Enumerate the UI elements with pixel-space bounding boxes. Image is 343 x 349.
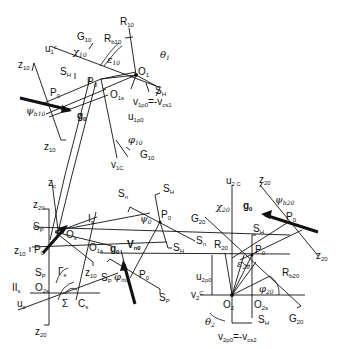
svg-text:SH: SH <box>258 314 269 326</box>
svg-text:G10: G10 <box>140 149 155 161</box>
svg-text:v2C: v2C <box>191 289 204 301</box>
svg-text:ε20: ε20 <box>237 258 250 270</box>
svg-text:SP: SP <box>159 292 170 304</box>
svg-text:O2s: O2s <box>254 299 268 311</box>
svg-text:O1: O1 <box>138 66 150 78</box>
svg-text:z20: z20 <box>35 326 47 338</box>
svg-text:φ20: φ20 <box>259 283 274 295</box>
svg-text:P0: P0 <box>161 209 172 221</box>
svg-text:SP: SP <box>101 272 112 284</box>
svg-text:Γs: Γs <box>58 266 67 278</box>
svg-text:IIs: IIs <box>12 282 21 294</box>
svg-text:Rb10: Rb10 <box>104 33 122 45</box>
svg-text:Vn0: Vn0 <box>127 239 141 251</box>
svg-text:v2p0=-vcs2: v2p0=-vcs2 <box>218 331 257 343</box>
svg-text:v1p0=-vcs1: v1p0=-vcs1 <box>133 96 172 108</box>
svg-text:z10: z10 <box>14 245 26 257</box>
svg-text:SH: SH <box>60 66 71 78</box>
svg-text:Rb20: Rb20 <box>282 267 300 279</box>
svg-text:P0: P0 <box>87 76 98 88</box>
svg-text:O2s: O2s <box>35 282 49 294</box>
svg-text:O2: O2 <box>223 299 235 311</box>
svg-text:P0: P0 <box>34 244 45 256</box>
svg-text:φ10: φ10 <box>128 134 143 146</box>
svg-text:O1s: O1s <box>89 242 103 254</box>
svg-text:u1p0: u1p0 <box>128 111 144 123</box>
svg-text:z10: z10 <box>44 141 56 153</box>
svg-text:z20: z20 <box>33 199 45 211</box>
svg-text:O1s: O1s <box>110 89 124 101</box>
svg-text:ψb10: ψb10 <box>26 105 46 117</box>
gear-mesh-diagram: R10 Rb10 G10 u1c χ10 θ1 ε10 SH SH O1 O1s… <box>0 0 343 349</box>
diagram-canvas: R10 Rb10 G10 u1c χ10 θ1 ε10 SH SH O1 O1s… <box>0 0 343 349</box>
svg-text:zc: zc <box>48 177 56 189</box>
svg-text:Os: Os <box>66 229 77 241</box>
svg-text:u1c: u1c <box>45 43 57 55</box>
svg-text:z20: z20 <box>316 250 328 262</box>
svg-text:ε10: ε10 <box>107 54 120 66</box>
svg-text:Cs: Cs <box>78 298 88 310</box>
svg-text:SH: SH <box>253 223 264 235</box>
svg-text:P0: P0 <box>139 269 150 281</box>
svg-text:g0: g0 <box>77 110 87 122</box>
svg-text:Σ: Σ <box>62 298 68 309</box>
svg-text:ψ0: ψ0 <box>140 213 152 225</box>
svg-text:R10: R10 <box>120 16 135 28</box>
svg-text:G10: G10 <box>77 31 92 43</box>
svg-text:u2 C: u2 C <box>226 175 242 187</box>
svg-text:g0: g0 <box>110 243 120 255</box>
svg-text:θ1: θ1 <box>160 49 170 61</box>
left-labels: zc z20 SP Os z10 P0 Is O1s SP Γs z10 IIs… <box>12 177 103 338</box>
svg-text:v1C: v1C <box>111 159 124 171</box>
svg-text:G20: G20 <box>191 213 206 225</box>
svg-text:z10: z10 <box>85 267 97 279</box>
svg-text:SH: SH <box>173 242 184 254</box>
svg-text:P0: P0 <box>255 244 266 256</box>
svg-text:χ10: χ10 <box>72 46 87 58</box>
svg-text:SP: SP <box>35 267 46 279</box>
svg-text:uc: uc <box>17 298 26 310</box>
svg-text:SH: SH <box>163 183 174 195</box>
svg-text:R20: R20 <box>214 239 229 251</box>
svg-text:z20: z20 <box>259 174 271 186</box>
svg-text:Sn: Sn <box>118 188 128 200</box>
svg-text:u2p0: u2p0 <box>196 271 212 283</box>
svg-text:ψb20: ψb20 <box>275 194 295 206</box>
svg-text:Sn: Sn <box>196 235 206 247</box>
svg-text:g0: g0 <box>243 200 253 212</box>
svg-text:P0: P0 <box>286 211 297 223</box>
svg-text:P0: P0 <box>50 87 61 99</box>
svg-text:z10: z10 <box>18 59 30 71</box>
svg-text:Is: Is <box>88 213 94 225</box>
svg-text:χ20: χ20 <box>215 201 230 213</box>
svg-text:θ2: θ2 <box>205 316 215 328</box>
svg-text:G20: G20 <box>289 313 304 325</box>
